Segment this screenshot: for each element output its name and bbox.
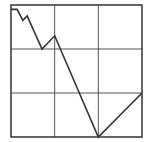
data-line [11, 9, 142, 137]
line-chart [0, 0, 148, 142]
